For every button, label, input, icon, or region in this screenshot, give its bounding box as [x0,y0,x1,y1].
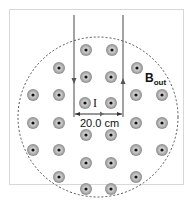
dot-center-icon [57,66,60,69]
dot-center-icon [109,75,112,78]
field-symbol: B [145,71,154,85]
dot-center-icon [57,148,60,151]
dot-center-icon [160,93,163,96]
dot-center-icon [84,133,87,136]
dot-center-icon [31,93,34,96]
dot-center-icon [109,187,112,190]
dot-center-icon [84,48,87,51]
field-subscript: out [154,78,166,87]
dot-center-icon [134,121,137,124]
dot-center-icon [109,133,112,136]
dot-center-icon [135,66,138,69]
field-label: Bout [145,71,166,87]
dot-center-icon [109,101,112,104]
arrow-down-icon [72,78,77,84]
dot-center-icon [84,187,87,190]
current-label: I [93,96,97,111]
dot-center-icon [83,101,86,104]
arrowhead-left-icon [75,112,80,116]
dot-center-icon [134,175,137,178]
arrowhead-right-icon [117,112,122,116]
dot-center-icon [160,148,163,151]
dot-center-icon [160,121,163,124]
dot-center-icon [110,48,113,51]
dot-center-icon [57,175,60,178]
dot-center-icon [31,148,34,151]
dot-center-icon [109,161,112,164]
dot-center-icon [84,75,87,78]
distance-label: 20.0 cm [80,117,119,129]
magnetic-field-diagram [0,0,194,219]
dot-center-icon [31,121,34,124]
dot-center-icon [57,93,60,96]
dot-center-icon [57,121,60,124]
current-arrow-icon [100,112,104,117]
dot-center-icon [84,161,87,164]
arrow-up-icon [121,78,126,84]
dot-center-icon [134,93,137,96]
dot-center-icon [134,148,137,151]
